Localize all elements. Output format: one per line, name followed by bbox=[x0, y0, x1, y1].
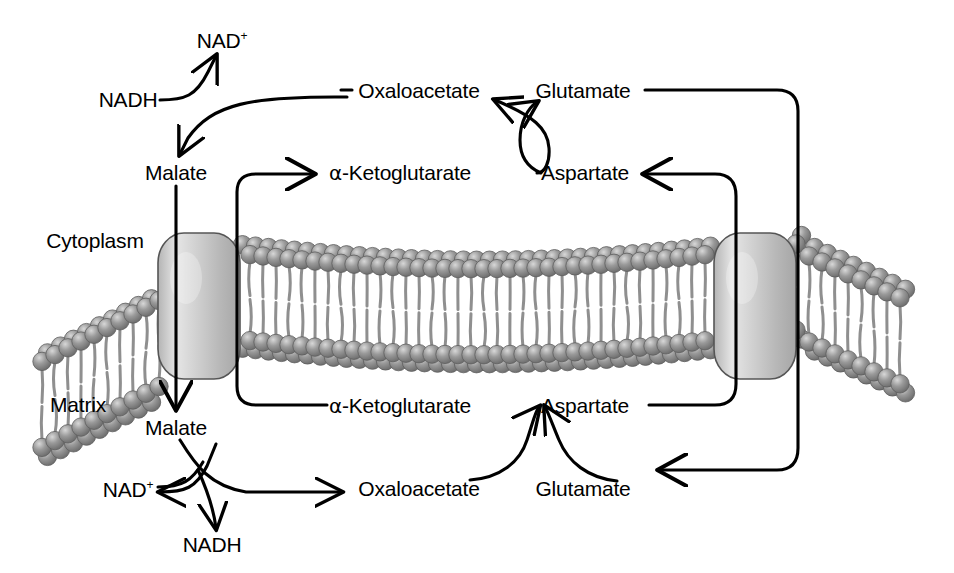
lipid-tail bbox=[54, 362, 56, 396]
lipid-tail bbox=[574, 311, 575, 345]
label-nad-plus-cytoplasm: NAD+ bbox=[197, 30, 248, 51]
lipid-tail bbox=[340, 270, 342, 304]
lipid-head bbox=[696, 332, 714, 350]
label-oxaloacetate-matrix: Oxaloacetate bbox=[358, 478, 479, 499]
lipid-tail bbox=[523, 275, 524, 309]
transporter-protein-right bbox=[714, 233, 796, 379]
lipid-tail bbox=[354, 309, 355, 343]
lipid-tail bbox=[470, 314, 471, 348]
label-malate-matrix: Malate bbox=[145, 417, 207, 438]
lipid-tail bbox=[678, 265, 679, 299]
lipid-tail bbox=[665, 304, 666, 338]
label-nad-plus-matrix: NAD+ bbox=[103, 479, 154, 500]
lipid-head bbox=[150, 377, 168, 395]
lipid-tail bbox=[808, 301, 809, 335]
lipid-tail bbox=[288, 304, 289, 338]
lipid-tail bbox=[588, 310, 589, 344]
lipid-head bbox=[891, 289, 909, 307]
label-glutamate-matrix: Glutamate bbox=[535, 478, 630, 499]
arrow-oaa-to-malate-cyto bbox=[180, 97, 347, 154]
lipid-tail bbox=[627, 307, 629, 341]
lipid-tail bbox=[146, 314, 147, 348]
lipid-tail bbox=[328, 269, 329, 303]
lipid-tail bbox=[445, 313, 446, 347]
lipid-tail bbox=[353, 271, 354, 305]
lipid-tail bbox=[444, 275, 445, 309]
lipid-tail bbox=[145, 352, 146, 386]
arrow-oaa-to-aspartate-matrix bbox=[470, 407, 539, 480]
lipid-tail bbox=[106, 335, 107, 369]
lipid-tail bbox=[666, 266, 667, 300]
pathway-lines bbox=[160, 56, 798, 528]
lipid-tail bbox=[107, 373, 108, 407]
lipid-tail bbox=[900, 305, 901, 339]
lipid-tail bbox=[860, 325, 861, 359]
label-nadh-matrix: NADH bbox=[183, 534, 242, 555]
label-malate-cytoplasm: Malate bbox=[145, 162, 207, 183]
lipid-tail bbox=[575, 273, 576, 307]
lipid-tail bbox=[393, 312, 394, 346]
label-alpha-ketoglutarate-matrix: α-Ketoglutarate bbox=[329, 395, 471, 416]
lipid-tail bbox=[301, 267, 302, 301]
lipid-tail bbox=[67, 355, 68, 389]
transporter-protein-left bbox=[158, 233, 240, 379]
lipid-tail bbox=[341, 308, 343, 342]
lipid-tail bbox=[640, 306, 641, 340]
lipid-tail bbox=[302, 305, 303, 339]
label-aspartate-cytoplasm: Aspartate bbox=[541, 162, 629, 183]
arrow-nadh-to-nad-cyto bbox=[160, 56, 216, 100]
lipid-tail bbox=[614, 270, 615, 304]
lipid-tail bbox=[587, 272, 588, 306]
lipid-tail bbox=[899, 343, 900, 377]
lipid-tail bbox=[42, 368, 43, 402]
lipid-tail bbox=[327, 307, 328, 341]
lipid-tail bbox=[94, 341, 95, 375]
lipid-head bbox=[891, 375, 909, 393]
label-aspartate-matrix: Aspartate bbox=[541, 395, 629, 416]
alpha-glyph: α bbox=[329, 161, 342, 185]
lipid-tail bbox=[392, 274, 393, 308]
lipid-tail bbox=[483, 276, 485, 310]
lipid-tail bbox=[522, 313, 523, 347]
lipid-tail bbox=[496, 276, 497, 310]
lipid-tail bbox=[471, 276, 472, 310]
lipid-tail bbox=[535, 275, 536, 309]
label-alpha-ketoglutarate-cytoplasm: α-Ketoglutarate bbox=[329, 162, 471, 183]
label-glutamate-cytoplasm: Glutamate bbox=[535, 80, 630, 101]
lipid-tail bbox=[613, 308, 614, 342]
lipid-tail bbox=[873, 293, 874, 327]
lipid-tail bbox=[289, 266, 290, 300]
lipid-tail bbox=[874, 331, 875, 365]
label-matrix: Matrix bbox=[50, 394, 106, 415]
lipid-tail bbox=[380, 273, 381, 307]
lipid-tail bbox=[626, 269, 628, 303]
lipid-tail bbox=[861, 287, 862, 321]
lipid-tail bbox=[431, 313, 432, 347]
lipid-tail bbox=[822, 307, 823, 341]
arrow-glutamate-to-akg-matrix bbox=[545, 407, 617, 481]
lipid-tail bbox=[41, 406, 42, 440]
lipid-tail bbox=[250, 300, 251, 334]
lipid-tail bbox=[249, 262, 250, 296]
lipid-tail bbox=[536, 313, 537, 347]
label-oxaloacetate-cytoplasm: Oxaloacetate bbox=[358, 80, 479, 101]
lipid-tail bbox=[484, 314, 486, 348]
lipid-tail bbox=[497, 314, 498, 348]
alpha-glyph: α bbox=[329, 394, 342, 418]
lipid-tail bbox=[432, 275, 433, 309]
lipid-tail bbox=[679, 303, 680, 337]
lipid-head bbox=[696, 246, 714, 264]
lipid-tail bbox=[809, 263, 810, 297]
lipid-tail bbox=[821, 269, 822, 303]
label-cytoplasm: Cytoplasm bbox=[46, 230, 143, 251]
label-nadh-cytoplasm: NADH bbox=[99, 89, 158, 110]
lipid-tail bbox=[379, 311, 380, 345]
malate-aspartate-shuttle-diagram: NAD+ NADH Malate Oxaloacetate Glutamate … bbox=[0, 0, 954, 573]
lipid-tail bbox=[639, 268, 640, 302]
